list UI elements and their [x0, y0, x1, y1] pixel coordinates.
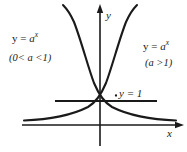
right-curve-equation-label: y = ax [143, 41, 169, 53]
x-axis-label: x [167, 128, 172, 140]
exponential-function-figure: y = ax (0< a <1) y = ax (a >1) y = 1 y x [0, 0, 187, 152]
plot-canvas [0, 0, 187, 152]
y-equals-one-text: y = 1 [119, 87, 142, 99]
x-axis-arrowhead [175, 122, 184, 128]
left-equation-exponent: x [35, 30, 38, 39]
left-curve-equation-label: y = ax [12, 33, 38, 45]
y-equals-one-pointer-dot [115, 94, 117, 96]
right-equation-prefix: y = [143, 40, 160, 52]
y-axis-label: y [106, 10, 111, 22]
y-equals-one-label: y = 1 [119, 88, 142, 100]
left-curve-condition-label: (0< a <1) [9, 52, 51, 63]
left-equation-prefix: y = [12, 32, 29, 44]
y-axis-arrowhead [97, 4, 103, 13]
right-equation-exponent: x [166, 38, 169, 47]
right-curve-condition-label: (a >1) [145, 57, 172, 68]
